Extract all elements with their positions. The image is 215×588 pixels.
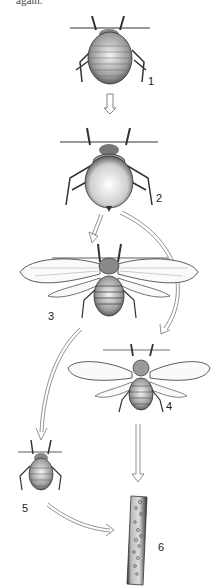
stage-label-6: 6 [158,541,164,553]
arrow-4-to-6 [132,424,144,482]
aphid-stage-4 [68,344,210,412]
stage-label-3: 3 [48,310,54,322]
stage-label-1: 1 [148,75,154,87]
aphid-stage-3 [20,244,198,318]
stage-label-2: 2 [156,192,162,204]
stage-label-4: 4 [166,400,172,412]
aphid-stage-5 [18,440,62,490]
arrow-5-to-6 [47,503,114,536]
arrow-1-to-2 [104,94,116,114]
arrow-3-to-5 [36,328,82,440]
stage-label-5: 5 [22,502,28,514]
aphid-stage-2 [60,128,158,212]
plant-stem-with-eggs [127,496,147,585]
aphid-life-cycle-diagram: 1 2 [0,0,215,588]
aphid-stage-1 [70,16,150,84]
arrow-2-to-3 [89,214,103,243]
